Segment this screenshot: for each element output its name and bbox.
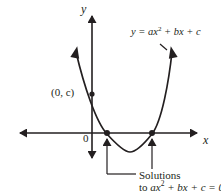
x-axis-label: x: [203, 134, 208, 146]
solutions-line2-prefix: to: [139, 181, 150, 193]
origin-label: 0: [83, 133, 89, 144]
equation-label: y = ax2 + bx + c: [131, 27, 201, 38]
solutions-label-line2: to ax2 + bx + c = 0: [139, 182, 221, 193]
y-intercept-point: [89, 91, 94, 96]
equation-label-prefix: y =: [131, 26, 148, 37]
y-intercept-label: (0, c): [51, 87, 74, 98]
equation-label-a: ax: [148, 26, 158, 37]
x-intercept-left-point: [104, 130, 110, 136]
y-axis-label: y: [81, 3, 86, 15]
x-intercept-right-point: [149, 130, 155, 136]
solutions-line2-rest: + bx + c = 0: [164, 181, 221, 193]
solutions-line2-a: ax: [150, 181, 160, 193]
equation-label-rest: + bx + c: [161, 26, 200, 37]
